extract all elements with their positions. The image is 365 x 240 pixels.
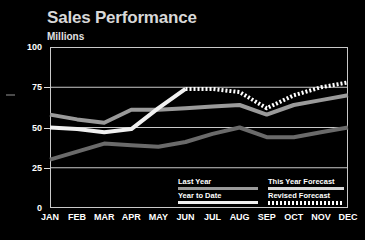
chart-subtitle-units: Millions	[47, 31, 84, 42]
x-axis-tick-label-may: MAY	[149, 212, 168, 222]
y-axis-tick-label: 50	[12, 123, 42, 133]
legend-label-this-year-forecast: This Year Forecast	[268, 177, 344, 186]
chart-title: Sales Performance	[47, 8, 197, 28]
x-axis-tick-label-jun: JUN	[176, 212, 194, 222]
y-axis-tick-label: 0	[12, 203, 42, 213]
legend-label-revised-forecast: Revised Forecast	[268, 191, 344, 200]
x-axis-tick-label-nov: NOV	[311, 212, 331, 222]
legend-item-year-to-date: Year to Date	[178, 191, 258, 204]
x-axis-tick-label-dec: DEC	[338, 212, 357, 222]
legend-swatch-year-to-date	[178, 201, 258, 204]
x-axis-tick-label-jan: JAN	[41, 212, 59, 222]
legend-swatch-last-year	[178, 187, 258, 190]
x-axis-tick-label-sep: SEP	[258, 212, 276, 222]
y-axis-tick-mark	[44, 128, 50, 129]
legend-item-this-year-forecast: This Year Forecast	[268, 177, 344, 190]
x-axis-tick-label-mar: MAR	[94, 212, 115, 222]
legend-item-last-year: Last Year	[178, 177, 258, 190]
x-axis-tick-label-jul: JUL	[204, 212, 221, 222]
x-axis-tick-label-oct: OCT	[284, 212, 303, 222]
legend-swatch-revised-forecast	[268, 201, 344, 205]
x-axis-tick-label-apr: APR	[122, 212, 141, 222]
y-axis-tick-label: 75	[12, 82, 42, 92]
legend-item-revised-forecast: Revised Forecast	[268, 191, 344, 205]
y-axis-tick-label: 100	[12, 42, 42, 52]
x-axis-tick-label-feb: FEB	[68, 212, 86, 222]
legend-label-year-to-date: Year to Date	[178, 191, 258, 200]
x-axis-tick-label-aug: AUG	[230, 212, 250, 222]
left-edge-marker	[6, 94, 15, 96]
sales-performance-chart: Sales Performance Millions 0255075100 JA…	[0, 0, 365, 240]
legend-label-last-year: Last Year	[178, 177, 258, 186]
y-axis-tick-mark	[44, 168, 50, 169]
legend-swatch-this-year-forecast	[268, 187, 344, 190]
y-axis-tick-label: 25	[12, 163, 42, 173]
y-axis-tick-mark	[44, 87, 50, 88]
